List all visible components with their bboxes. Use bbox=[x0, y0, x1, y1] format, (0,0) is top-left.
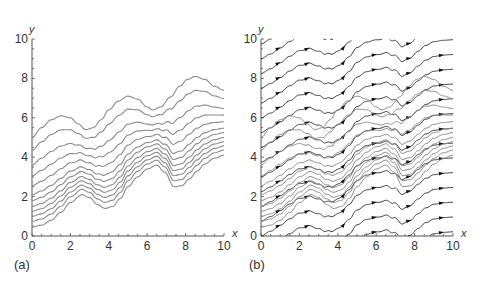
arrow-icon bbox=[304, 135, 310, 140]
streamline bbox=[261, 40, 351, 73]
x-tick-label: 6 bbox=[144, 239, 151, 253]
arrow-icon bbox=[304, 209, 310, 214]
y-tick-label: 10 bbox=[244, 32, 258, 46]
x-tick-label: 2 bbox=[296, 239, 303, 253]
panel-a-plot: 02468100246810xy bbox=[15, 23, 238, 253]
x-tick-label: 2 bbox=[67, 239, 74, 253]
panel-a-label: (a) bbox=[14, 257, 30, 272]
x-axis-label: x bbox=[231, 227, 238, 239]
y-tick-label: 4 bbox=[250, 150, 257, 164]
arrow-icon bbox=[304, 76, 310, 81]
solution-curve bbox=[32, 90, 224, 150]
y-tick-label: 8 bbox=[21, 71, 28, 85]
panel-b-plot: 02468100246810xy bbox=[244, 23, 467, 253]
arrow-icon bbox=[439, 186, 444, 190]
arrow-icon bbox=[304, 223, 310, 228]
y-tick-label: 4 bbox=[21, 150, 28, 164]
y-tick-label: 6 bbox=[250, 111, 257, 125]
x-tick-label: 10 bbox=[217, 239, 231, 253]
x-tick-label: 4 bbox=[334, 239, 341, 253]
arrow-icon bbox=[304, 46, 310, 51]
y-axis-label: y bbox=[28, 23, 36, 35]
x-tick-label: 0 bbox=[29, 239, 36, 253]
x-tick-label: 6 bbox=[373, 239, 380, 253]
y-tick-label: 10 bbox=[15, 32, 29, 46]
x-tick-label: 8 bbox=[411, 239, 418, 253]
arrow-icon bbox=[439, 53, 444, 57]
arrow-icon bbox=[439, 68, 444, 72]
x-axis-label: x bbox=[460, 227, 467, 239]
arrow-icon bbox=[439, 201, 444, 205]
streamline bbox=[261, 39, 272, 44]
arrow-icon bbox=[304, 61, 310, 66]
y-tick-label: 6 bbox=[21, 111, 28, 125]
x-tick-label: 0 bbox=[258, 239, 265, 253]
y-axis-label: y bbox=[257, 23, 265, 35]
arrow-icon bbox=[439, 112, 444, 116]
streamline bbox=[261, 39, 333, 59]
figure: 02468100246810xy 02468100246810xy bbox=[0, 0, 483, 288]
y-tick-label: 8 bbox=[250, 71, 257, 85]
y-tick-label: 2 bbox=[250, 190, 257, 204]
y-tick-label: 2 bbox=[21, 190, 28, 204]
y-tick-label: 0 bbox=[250, 229, 257, 243]
x-tick-label: 10 bbox=[446, 239, 460, 253]
panel-b-label: (b) bbox=[249, 257, 265, 272]
arrow-icon bbox=[439, 171, 444, 175]
arrow-icon bbox=[439, 97, 444, 101]
arrow-icon bbox=[304, 90, 310, 95]
arrow-icon bbox=[304, 105, 310, 110]
x-tick-label: 8 bbox=[182, 239, 189, 253]
x-tick-label: 4 bbox=[105, 239, 112, 253]
arrow-icon bbox=[439, 216, 444, 220]
y-tick-label: 0 bbox=[21, 229, 28, 243]
arrow-icon bbox=[439, 230, 444, 234]
